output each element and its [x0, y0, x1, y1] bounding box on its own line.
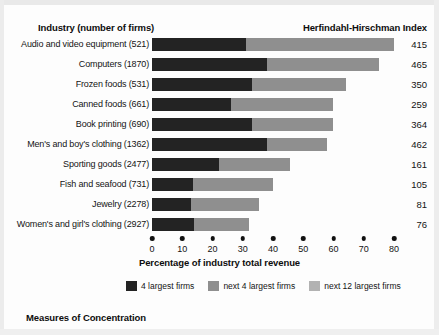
axis-tick-mark	[210, 236, 215, 241]
legend-swatch	[126, 281, 137, 291]
chart-row: Audio and video equipment (521)415	[0, 36, 439, 56]
bar-segment	[152, 118, 252, 131]
bar-segment	[267, 58, 379, 71]
legend-label: next 12 largest firms	[324, 281, 401, 291]
hhi-value: 465	[397, 59, 427, 70]
chart-row: Sporting goods (2477)161	[0, 156, 439, 176]
axis-tick-mark	[392, 236, 397, 241]
bar-segment	[152, 178, 193, 191]
axis-tick-label: 50	[298, 244, 308, 254]
chart-row: Computers (1870)465	[0, 56, 439, 76]
legend-item: next 12 largest firms	[309, 281, 401, 291]
legend-label: 4 largest firms	[141, 281, 194, 291]
hhi-value: 105	[397, 179, 427, 190]
bar-segment	[152, 58, 267, 71]
hhi-value: 81	[397, 199, 427, 210]
row-category-label: Jewelry (2278)	[92, 199, 149, 209]
stacked-bar	[152, 78, 346, 91]
bar-segment	[152, 138, 267, 151]
bar-segment	[152, 218, 194, 231]
axis-tick-mark	[331, 236, 336, 241]
bar-segment	[152, 158, 219, 171]
bar-segment	[152, 38, 246, 51]
stacked-bar	[152, 98, 333, 111]
stacked-bar	[152, 58, 379, 71]
bar-segment	[246, 38, 394, 51]
chart-row: Canned foods (661)259	[0, 96, 439, 116]
bar-segment	[231, 98, 334, 111]
row-category-label: Book printing (690)	[76, 119, 149, 129]
stacked-bar	[152, 118, 333, 131]
bar-segment	[152, 198, 191, 211]
axis-tick-label: 10	[177, 244, 187, 254]
axis-tick-mark	[150, 236, 155, 241]
axis-tick-label: 30	[238, 244, 248, 254]
chart-legend: 4 largest firmsnext 4 largest firmsnext …	[126, 281, 401, 291]
legend-swatch	[208, 281, 219, 291]
stacked-bar	[152, 178, 273, 191]
row-category-label: Fish and seafood (731)	[60, 179, 149, 189]
row-category-label: Sporting goods (2477)	[63, 159, 149, 169]
legend-item: next 4 largest firms	[208, 281, 295, 291]
legend-label: next 4 largest firms	[223, 281, 295, 291]
row-category-label: Computers (1870)	[79, 59, 149, 69]
legend-swatch	[309, 281, 320, 291]
bar-chart: Industry (number of firms) Herfindahl-Hi…	[0, 0, 439, 335]
chart-row: Men's and boy's clothing (1362)462	[0, 136, 439, 156]
bar-segment	[191, 198, 259, 211]
hhi-value: 76	[397, 219, 427, 230]
chart-row: Frozen foods (531)350	[0, 76, 439, 96]
axis-tick-label: 80	[389, 244, 399, 254]
chart-row: Book printing (690)364	[0, 116, 439, 136]
hhi-value: 364	[397, 119, 427, 130]
axis-tick-mark	[301, 236, 306, 241]
axis-tick-label: 70	[359, 244, 369, 254]
chart-row: Women's and girl's clothing (2927)76	[0, 216, 439, 236]
row-category-label: Men's and boy's clothing (1362)	[27, 139, 149, 149]
chart-row: Fish and seafood (731)105	[0, 176, 439, 196]
chart-page: Industry (number of firms) Herfindahl-Hi…	[0, 0, 439, 335]
bar-segment	[252, 118, 334, 131]
stacked-bar	[152, 138, 327, 151]
bar-segment	[219, 158, 290, 171]
hhi-value: 462	[397, 139, 427, 150]
x-axis-title: Percentage of industry total revenue	[0, 257, 439, 268]
row-category-label: Audio and video equipment (521)	[21, 39, 149, 49]
axis-tick-mark	[271, 236, 276, 241]
figure-caption: Measures of Concentration	[26, 312, 146, 323]
hhi-value: 415	[397, 39, 427, 50]
axis-tick-label: 0	[149, 244, 154, 254]
row-category-label: Women's and girl's clothing (2927)	[17, 219, 149, 229]
axis-tick-mark	[241, 236, 246, 241]
axis-tick-mark	[180, 236, 185, 241]
bar-segment	[193, 178, 273, 191]
legend-item: 4 largest firms	[126, 281, 194, 291]
row-category-label: Canned foods (661)	[72, 99, 149, 109]
stacked-bar	[152, 158, 290, 171]
bar-segment	[152, 98, 231, 111]
bar-segment	[152, 78, 252, 91]
stacked-bar	[152, 38, 394, 51]
axis-tick-label: 20	[207, 244, 217, 254]
chart-row: Jewelry (2278)81	[0, 196, 439, 216]
bar-segment	[267, 138, 328, 151]
column-header-hhi: Herfindahl-Hirschman Index	[303, 22, 427, 33]
hhi-value: 161	[397, 159, 427, 170]
stacked-bar	[152, 218, 249, 231]
axis-tick-label: 60	[328, 244, 338, 254]
row-category-label: Frozen foods (531)	[76, 79, 149, 89]
hhi-value: 350	[397, 79, 427, 90]
axis-tick-mark	[362, 236, 367, 241]
bar-segment	[252, 78, 346, 91]
axis-tick-label: 40	[268, 244, 278, 254]
hhi-value: 259	[397, 99, 427, 110]
stacked-bar	[152, 198, 259, 211]
column-header-industry: Industry (number of firms)	[38, 22, 154, 33]
bar-segment	[194, 218, 248, 231]
